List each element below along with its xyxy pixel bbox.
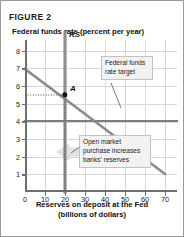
plot-area: 12345678010203040506070 A RS RD Federal … <box>25 40 177 192</box>
y-tick <box>22 121 26 122</box>
point-a-label: A <box>70 84 76 93</box>
y-tick-label: 4 <box>8 117 20 126</box>
y-tick <box>22 51 26 52</box>
x-axis-title-line1: Reserves on deposit at the Fed <box>1 200 183 210</box>
y-tick-label: 5 <box>8 99 20 108</box>
figure-card: FIGURE 2 Federal funds rate (percent per… <box>0 0 184 237</box>
x-axis-title-line2: (billions of dollars) <box>1 210 183 220</box>
y-tick <box>22 68 26 69</box>
supply-curve-label: RS <box>69 30 80 39</box>
y-tick-label: 8 <box>8 46 20 55</box>
y-tick <box>22 139 26 140</box>
y-tick-label: 7 <box>8 64 20 73</box>
y-tick-label: 1 <box>8 170 20 179</box>
y-tick-label: 2 <box>8 152 20 161</box>
point-a-guide-lines <box>25 95 65 192</box>
federal-funds-rate-target-callout: Federal funds rate target <box>101 56 153 80</box>
y-tick <box>22 86 26 87</box>
y-tick <box>22 104 26 105</box>
y-tick <box>22 174 26 175</box>
target-callout-leader <box>111 83 121 108</box>
y-tick <box>22 157 26 158</box>
x-axis-title: Reserves on deposit at the Fed (billions… <box>1 200 183 221</box>
x-axis <box>25 190 177 192</box>
y-axis <box>25 40 27 192</box>
y-tick-label: 3 <box>8 134 20 143</box>
y-tick-label: 6 <box>8 81 20 90</box>
open-market-purchase-callout: Open market purchase increases banks' re… <box>79 135 151 168</box>
figure-title: FIGURE 2 <box>9 12 51 22</box>
